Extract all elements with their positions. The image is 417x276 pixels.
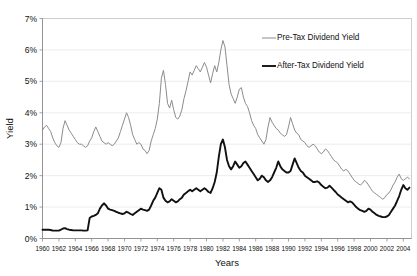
x-tick-label-1988: 1988 — [265, 245, 280, 252]
y-tick-label-7%: 7% — [25, 14, 38, 24]
dividend-yield-chart: 0%1%2%3%4%5%6%7%196019621964196619681970… — [0, 0, 417, 276]
x-tick-label-1962: 1962 — [52, 245, 67, 252]
x-tick-label-1994: 1994 — [314, 245, 329, 252]
y-tick-label-3%: 3% — [25, 139, 38, 149]
x-tick-label-2002: 2002 — [380, 245, 395, 252]
x-tick-label-1982: 1982 — [216, 245, 231, 252]
x-tick-label-1986: 1986 — [249, 245, 264, 252]
chart-canvas: 0%1%2%3%4%5%6%7%196019621964196619681970… — [0, 0, 417, 276]
y-axis-title: Yield — [4, 118, 15, 139]
x-tick-label-2000: 2000 — [363, 245, 378, 252]
y-tick-label-1%: 1% — [25, 202, 38, 212]
x-tick-label-1976: 1976 — [167, 245, 182, 252]
legend-label-pre-tax: Pre-Tax Dividend Yield — [277, 33, 360, 42]
x-tick-label-1970: 1970 — [117, 245, 132, 252]
y-tick-label-4%: 4% — [25, 108, 38, 118]
x-tick-label-1996: 1996 — [331, 245, 346, 252]
x-tick-label-1998: 1998 — [347, 245, 362, 252]
y-tick-label-6%: 6% — [25, 45, 38, 55]
y-tick-label-5%: 5% — [25, 76, 38, 86]
y-tick-label-2%: 2% — [25, 171, 38, 181]
x-axis-title: Years — [215, 257, 239, 268]
legend-label-after-tax: After-Tax Dividend Yield — [277, 61, 364, 70]
x-tick-label-1978: 1978 — [183, 245, 198, 252]
x-tick-label-1960: 1960 — [35, 245, 50, 252]
x-tick-label-1968: 1968 — [101, 245, 116, 252]
x-tick-label-1966: 1966 — [85, 245, 100, 252]
x-tick-label-1992: 1992 — [298, 245, 313, 252]
x-tick-label-1980: 1980 — [199, 245, 214, 252]
x-tick-label-1990: 1990 — [281, 245, 296, 252]
x-tick-label-1964: 1964 — [68, 245, 83, 252]
x-tick-label-1974: 1974 — [150, 245, 165, 252]
x-tick-label-2004: 2004 — [396, 245, 411, 252]
x-tick-label-1972: 1972 — [134, 245, 149, 252]
x-tick-label-1984: 1984 — [232, 245, 247, 252]
y-tick-label-0%: 0% — [25, 234, 38, 244]
